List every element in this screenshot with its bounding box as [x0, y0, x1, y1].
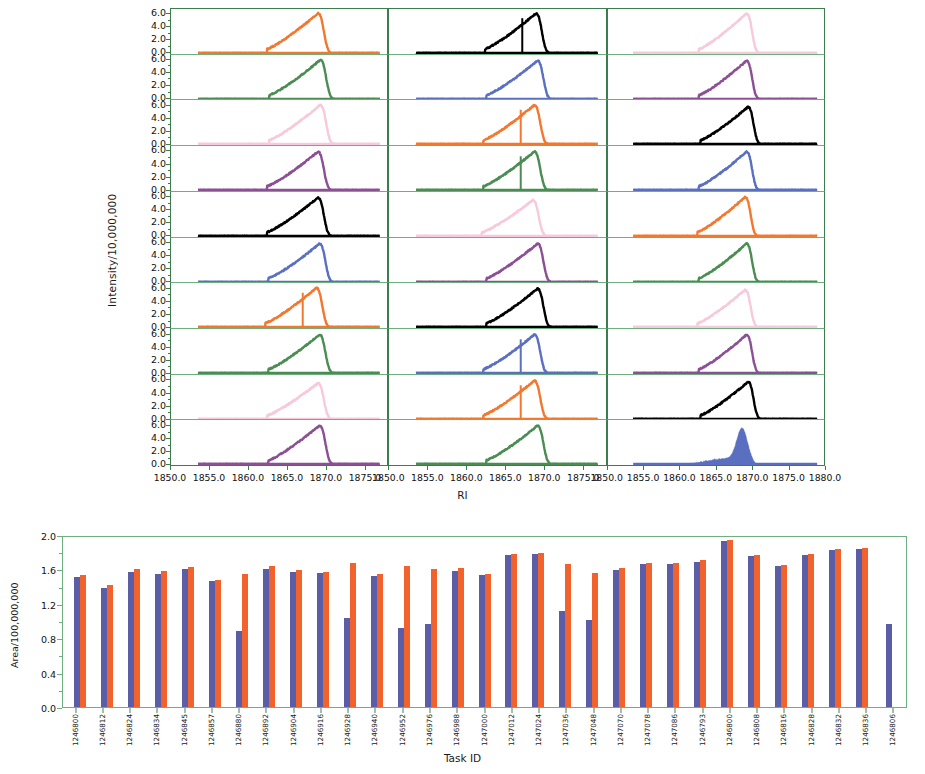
bar-orange[interactable] — [458, 568, 464, 707]
bar-group[interactable] — [471, 537, 498, 707]
intensity-ticks-row-8: 6.04.02.00.0 — [126, 329, 170, 375]
bar-orange[interactable] — [107, 585, 113, 707]
bar-orange[interactable] — [862, 548, 868, 707]
taskid-tick-label: 1246892 — [262, 714, 269, 746]
chromatogram-panel-c2-r5 — [388, 192, 606, 238]
bar-group[interactable] — [552, 537, 579, 707]
bar-group[interactable] — [498, 537, 525, 707]
bar-group[interactable] — [67, 537, 94, 707]
bar-orange[interactable] — [404, 566, 410, 707]
bar-orange[interactable] — [646, 563, 652, 707]
bar-group[interactable] — [633, 537, 660, 707]
bar-group[interactable] — [714, 537, 741, 707]
bar-orange[interactable] — [323, 572, 329, 707]
taskid-tick-mark — [757, 708, 758, 713]
bar-group[interactable] — [336, 537, 363, 707]
bar-orange[interactable] — [350, 563, 356, 708]
intensity-tick-label: 4.0 — [151, 159, 166, 169]
bar-orange[interactable] — [161, 571, 167, 707]
bar-group[interactable] — [94, 537, 121, 707]
taskid-tick-mark — [893, 708, 894, 713]
intensity-tick-label: 4.0 — [151, 342, 166, 352]
bar-orange[interactable] — [80, 575, 86, 707]
bar-blue[interactable] — [886, 624, 892, 707]
bar-group[interactable] — [767, 537, 794, 707]
bar-orange[interactable] — [673, 563, 679, 708]
ri-tick-mark — [287, 466, 288, 470]
bar-group[interactable] — [740, 537, 767, 707]
chromatogram-panel-c3-r10 — [607, 420, 825, 466]
taskid-tick-label: 1246800 — [72, 714, 79, 746]
taskid-tick-label: 1247024 — [535, 714, 542, 746]
bar-group[interactable] — [390, 537, 417, 707]
chromatogram-panel-c1-r10 — [170, 420, 388, 466]
taskid-tick-label: 1246816 — [780, 714, 787, 746]
bar-orange[interactable] — [431, 569, 437, 707]
ri-tick-label: 1855.0 — [411, 472, 444, 483]
bar-group[interactable] — [794, 537, 821, 707]
taskid-tick-mark — [729, 708, 730, 713]
bar-group[interactable] — [229, 537, 256, 707]
bar-group[interactable] — [875, 537, 902, 707]
bar-orange[interactable] — [835, 549, 841, 707]
bar-group[interactable] — [579, 537, 606, 707]
bar-group[interactable] — [363, 537, 390, 707]
ri-tick-mark — [505, 466, 506, 470]
chromatogram-panel-c1-r4 — [170, 146, 388, 192]
bar-group[interactable] — [687, 537, 714, 707]
bar-orange[interactable] — [377, 574, 383, 707]
ri-tick-label: 1870.0 — [736, 472, 769, 483]
bar-group[interactable] — [606, 537, 633, 707]
bar-group[interactable] — [660, 537, 687, 707]
bar-group[interactable] — [283, 537, 310, 707]
bar-group[interactable] — [444, 537, 471, 707]
taskid-tick-label: 1247000 — [481, 714, 488, 746]
bar-group[interactable] — [202, 537, 229, 707]
chromatogram-panel-c3-r5 — [607, 192, 825, 238]
bar-orange[interactable] — [754, 555, 760, 707]
bar-group[interactable] — [821, 537, 848, 707]
chromatogram-panel-c2-r6 — [388, 238, 606, 284]
bar-group[interactable] — [148, 537, 175, 707]
bar-group[interactable] — [309, 537, 336, 707]
bar-group[interactable] — [848, 537, 875, 707]
intensity-tick-label: 4.0 — [151, 67, 166, 77]
chromatogram-panel-c3-r6 — [607, 238, 825, 284]
bar-orange[interactable] — [134, 569, 140, 707]
ri-tick-mark — [170, 466, 171, 470]
bar-orange[interactable] — [511, 554, 517, 707]
bar-orange[interactable] — [296, 570, 302, 707]
bar-orange[interactable] — [215, 580, 221, 707]
bar-orange[interactable] — [485, 574, 491, 707]
bar-orange[interactable] — [727, 540, 733, 707]
taskid-tick-mark — [348, 708, 349, 713]
taskid-tick-label: 1246928 — [344, 714, 351, 746]
bar-group[interactable] — [175, 537, 202, 707]
ri-tick-mark — [789, 466, 790, 470]
taskid-tick-label: 1246806 — [889, 714, 896, 746]
bar-group[interactable] — [417, 537, 444, 707]
bar-orange[interactable] — [592, 573, 598, 707]
bar-group[interactable] — [256, 537, 283, 707]
bar-orange[interactable] — [242, 574, 248, 707]
bar-orange[interactable] — [700, 560, 706, 707]
bar-orange[interactable] — [269, 566, 275, 707]
bar-group[interactable] — [121, 537, 148, 707]
ri-tick-mark — [209, 466, 210, 470]
bar-orange[interactable] — [808, 554, 814, 707]
bar-orange[interactable] — [781, 565, 787, 707]
taskid-tick-label: 1247036 — [562, 714, 569, 746]
taskid-tick-mark — [211, 708, 212, 713]
ri-tick-mark — [326, 466, 327, 470]
bar-group[interactable] — [525, 537, 552, 707]
area-tick-layer: 2.01.61.20.80.40.0 — [14, 536, 62, 708]
intensity-tick-label: 2.0 — [151, 355, 166, 365]
bar-orange[interactable] — [619, 568, 625, 707]
ri-tick-mark — [248, 466, 249, 470]
bar-orange[interactable] — [538, 553, 544, 707]
chromatogram-panel-c1-r3 — [170, 100, 388, 146]
taskid-tick-mark — [184, 708, 185, 713]
bar-orange[interactable] — [188, 567, 194, 707]
bar-orange[interactable] — [565, 564, 571, 707]
taskid-tick-label: 1247078 — [644, 714, 651, 746]
